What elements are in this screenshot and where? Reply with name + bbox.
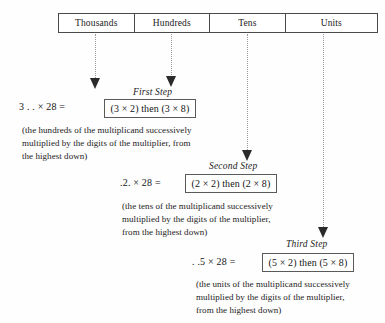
table-cell-label: Tens [238,18,256,28]
arrowhead-hundreds [166,76,176,87]
arrowhead-thousands [90,78,100,89]
note-line: multiplied by the digits of the multipli… [122,213,273,226]
table-cell-label: Thousands [75,18,118,28]
table-cell-label: Hundreds [153,18,191,28]
table-cell-hundreds: Hundreds [135,14,211,32]
step-box-third: (5 × 2) then (5 × 8) [262,253,354,272]
note-third: (the units of the multiplicand successiv… [196,278,350,318]
note-second: (the tens of the multiplicand successive… [122,200,273,240]
connector-line-tens [247,34,249,156]
step-box-first: (3 × 2) then (3 × 8) [104,99,196,118]
note-line: multiplied by the digits of the multipli… [22,137,192,150]
arrowhead-units [318,227,328,238]
step-label-third: Third Step [286,239,328,249]
arrowhead-tens [242,150,252,161]
note-line: the highest down) [22,150,192,163]
equation-third: . .5 × 28 = [192,256,235,267]
note-line: multiplied by the digits of the multipli… [196,291,350,304]
table-cell-label: Units [321,18,342,28]
step-label-second: Second Step [209,161,257,171]
note-first: (the hundreds of the multiplicand succes… [22,124,192,164]
step-label-first: First Step [133,87,172,97]
table-cell-tens: Tens [210,14,286,32]
connector-line-units [323,34,325,233]
equation-second: .2. × 28 = [120,177,161,188]
note-line: (the units of the multiplicand successiv… [196,278,350,291]
table-cell-thousands: Thousands [59,14,135,32]
equation-first: 3 . . × 28 = [19,101,65,112]
note-line: (the hundreds of the multiplicand succes… [22,124,192,137]
step-box-second: (2 × 2) then (2 × 8) [185,174,277,193]
place-value-table: Thousands Hundreds Tens Units [58,13,378,33]
note-line: from the highest down) [122,226,273,239]
diagram-canvas: Thousands Hundreds Tens Units First Step… [0,0,385,323]
note-line: from the highest down) [196,304,350,317]
table-cell-units: Units [286,14,377,32]
note-line: (the tens of the multiplicand successive… [122,200,273,213]
